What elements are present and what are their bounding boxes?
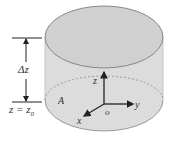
- cylinder-top: [45, 6, 163, 68]
- origin-label: o: [105, 107, 110, 117]
- z-equals-z0-label: z = z0: [8, 103, 34, 118]
- y-axis-label: y: [134, 99, 140, 110]
- area-label: A: [57, 95, 65, 106]
- x-axis-label: x: [76, 115, 82, 126]
- delta-z-label: Δz: [17, 63, 29, 75]
- z-axis-label: z: [92, 75, 97, 86]
- cylinder-diagram: Δz z = z0 A z y x o: [0, 0, 171, 143]
